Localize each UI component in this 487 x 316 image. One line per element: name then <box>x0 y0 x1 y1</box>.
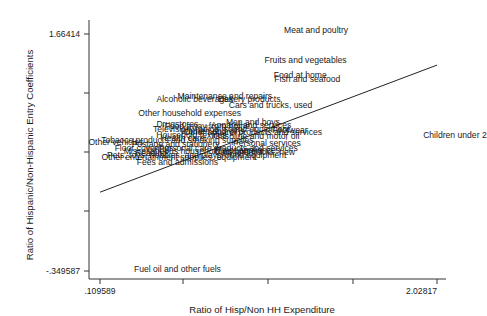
point-labels: Meat and poultryFruits and vegetablesFoo… <box>88 25 486 274</box>
point-label: Children under 2 <box>423 130 487 140</box>
y-tick-label-min: -.349587 <box>46 266 80 276</box>
x-ticks <box>100 279 437 284</box>
y-axis-title: Ratio of Hispanic/Non-Hispanic Entry Coe… <box>24 50 35 261</box>
y-tick-label-max: 1.66414 <box>49 29 80 39</box>
point-label: Fuel oil and other fuels <box>134 264 221 274</box>
y-ticks <box>84 34 89 271</box>
point-label: Meat and poultry <box>284 25 349 35</box>
point-label: Fees and admissions <box>137 157 218 167</box>
point-label: Fruits and vegetables <box>265 55 347 65</box>
x-tick-label-max: 2.02817 <box>406 286 437 296</box>
x-tick-label-min: .109589 <box>84 286 115 296</box>
scatter-chart: 1.66414 -.349587 .109589 2.02817 Ratio o… <box>0 0 487 316</box>
point-label: Fish and seafood <box>274 74 340 84</box>
point-label: Cars and trucks, used <box>229 100 313 110</box>
x-axis-title: Ratio of Hisp/Non HH Expenditure <box>189 304 335 315</box>
